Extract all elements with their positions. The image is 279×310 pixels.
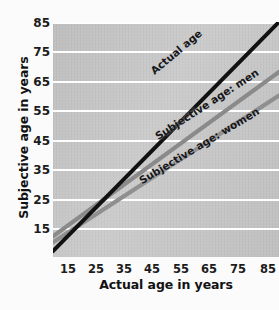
x-tick-15: 15: [53, 262, 83, 276]
x-tick-25: 25: [81, 262, 111, 276]
chart-figure: Actual age Subjective age: men Subjectiv…: [0, 0, 279, 310]
x-tick-65: 65: [194, 262, 224, 276]
x-tick-45: 45: [137, 262, 167, 276]
x-tick-55: 55: [166, 262, 196, 276]
x-tick-85: 85: [253, 262, 279, 276]
x-axis-title: Actual age in years: [53, 277, 279, 292]
y-tick-85: 85: [8, 16, 50, 30]
x-tick-75: 75: [223, 262, 253, 276]
line-subjective-age-men: [53, 72, 279, 237]
x-tick-35: 35: [109, 262, 139, 276]
y-axis-title: Subjective age in years: [16, 38, 31, 238]
